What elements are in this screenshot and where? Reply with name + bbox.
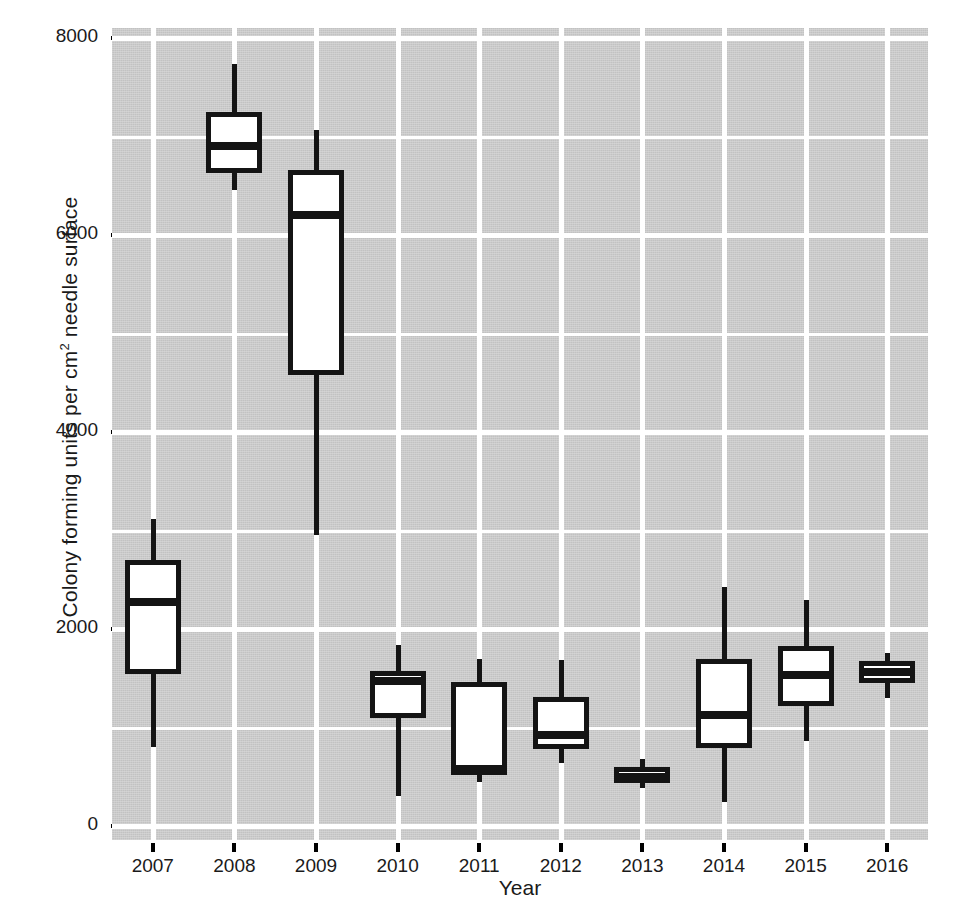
x-tick-mark-2007 [151,843,155,852]
whisker-upper-2015 [804,600,809,645]
whisker-lower-2015 [804,706,809,741]
whisker-upper-2007 [151,519,156,560]
whisker-upper-2013 [640,759,645,767]
x-tick-label-2008: 2008 [194,855,274,877]
x-tick-mark-2013 [640,843,644,852]
x-tick-mark-2014 [722,843,726,852]
median-line-2015 [778,671,834,679]
x-tick-label-2012: 2012 [521,855,601,877]
median-line-2012 [533,731,589,739]
median-line-2016 [859,668,915,676]
whisker-upper-2009 [314,130,319,170]
y-tick-label-4000: 4000 [18,419,98,441]
whisker-lower-2008 [232,173,237,190]
whisker-upper-2012 [559,660,564,697]
y-tick-label-0: 0 [18,813,98,835]
median-line-2011 [451,765,507,773]
x-axis-title: Year [112,876,928,900]
x-tick-label-2009: 2009 [276,855,356,877]
y-tick-label-6000: 6000 [18,222,98,244]
x-tick-label-2011: 2011 [439,855,519,877]
whisker-lower-2009 [314,375,319,536]
x-tick-mark-2010 [396,843,400,852]
x-tick-mark-2011 [477,843,481,852]
figure-boxplot-cfu-by-year: Colony forming units per cm2 needle surf… [0,0,953,912]
whisker-lower-2011 [477,775,482,782]
whisker-lower-2010 [396,718,401,797]
x-tick-label-2016: 2016 [847,855,927,877]
y-axis-tick-group: 02000400060008000 [12,0,98,912]
whisker-upper-2010 [396,645,401,672]
whisker-lower-2016 [885,683,890,698]
x-tick-label-2013: 2013 [602,855,682,877]
gridline-major-x-2016 [885,28,890,840]
median-line-2008 [206,142,262,150]
median-line-2014 [696,711,752,719]
box-iqr-2009 [288,170,344,375]
plot-panel [112,28,928,840]
box-iqr-2011 [451,682,507,775]
whisker-lower-2014 [722,748,727,802]
whisker-lower-2013 [640,783,645,788]
x-tick-mark-2008 [232,843,236,852]
y-tick-label-2000: 2000 [18,616,98,638]
x-tick-label-2010: 2010 [358,855,438,877]
whisker-upper-2011 [477,659,482,683]
median-line-2009 [288,211,344,219]
whisker-lower-2007 [151,674,156,747]
whisker-upper-2016 [885,653,890,661]
y-tick-label-8000: 8000 [18,25,98,47]
whisker-upper-2008 [232,64,237,112]
median-line-2007 [125,598,181,606]
x-tick-label-2015: 2015 [766,855,846,877]
box-iqr-2014 [696,659,752,749]
x-tick-mark-2016 [885,843,889,852]
median-line-2010 [370,677,426,685]
x-tick-mark-2009 [314,843,318,852]
gridline-major-x-2013 [640,28,645,840]
box-iqr-2007 [125,560,181,674]
box-iqr-2012 [533,697,589,749]
median-line-2013 [614,773,670,781]
whisker-lower-2012 [559,749,564,763]
x-tick-label-2007: 2007 [113,855,193,877]
whisker-upper-2014 [722,587,727,659]
x-tick-mark-2012 [559,843,563,852]
x-tick-label-2014: 2014 [684,855,764,877]
x-tick-mark-2015 [804,843,808,852]
